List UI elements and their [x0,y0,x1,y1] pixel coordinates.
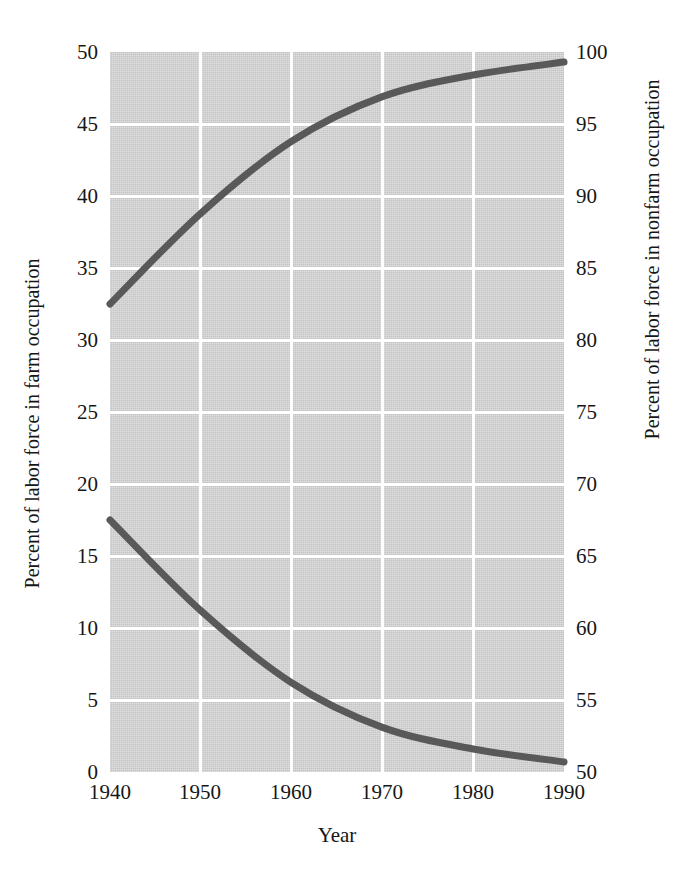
y-right-tick-60: 60 [576,618,664,639]
series-line-nonfarm [110,62,564,304]
y-axis-left-label: Percent of labor force in farm occupatio… [21,204,44,644]
y-axis-right-label: Percent of labor force in nonfarm occupa… [641,30,664,490]
x-axis-label: Year [110,823,564,848]
x-tick-1940: 1940 [65,782,155,803]
x-tick-1950: 1950 [155,782,245,803]
x-tick-1960: 1960 [246,782,336,803]
plot-area [110,52,564,772]
x-tick-1970: 1970 [337,782,427,803]
y-right-tick-50: 50 [576,762,664,783]
x-tick-1990: 1990 [519,782,609,803]
x-tick-1980: 1980 [428,782,518,803]
y-right-tick-55: 55 [576,690,664,711]
y-left-tick-50: 50 [10,42,98,63]
chart-figure: 50 45 40 35 30 25 20 15 10 5 0 100 95 90… [0,0,679,893]
y-left-tick-5: 5 [10,690,98,711]
y-right-tick-65: 65 [576,546,664,567]
y-left-tick-0: 0 [10,762,98,783]
series-line-farm [110,520,564,762]
series-container [110,52,564,772]
y-left-tick-45: 45 [10,114,98,135]
